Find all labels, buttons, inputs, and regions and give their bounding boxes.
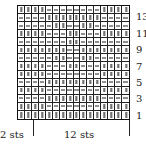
- purl-stitch-cell: [122, 14, 129, 22]
- knit-stitch-cell: [115, 71, 122, 79]
- purl-stitch-cell: [39, 38, 46, 46]
- purl-stitch-cell: [94, 103, 101, 111]
- purl-stitch-cell: [94, 38, 101, 46]
- knit-stitch-cell: [18, 111, 25, 119]
- knit-stitch-cell: [32, 46, 39, 54]
- knit-stitch-cell: [60, 79, 67, 87]
- knit-stitch-cell: [80, 79, 87, 87]
- knit-stitch-cell: [115, 30, 122, 38]
- knit-stitch-cell: [108, 46, 115, 54]
- purl-stitch-cell: [46, 6, 53, 14]
- purl-stitch-cell: [32, 95, 39, 103]
- purl-stitch-cell: [67, 6, 74, 14]
- knit-stitch-cell: [115, 6, 122, 14]
- knit-stitch-cell: [74, 38, 81, 46]
- knit-stitch-cell: [74, 14, 81, 22]
- knit-stitch-cell: [39, 46, 46, 54]
- knit-stitch-cell: [53, 79, 60, 87]
- knit-stitch-cell: [18, 46, 25, 54]
- knit-stitch-cell: [122, 62, 129, 70]
- row-number-label: 3: [136, 94, 142, 104]
- knit-stitch-cell: [115, 62, 122, 70]
- knit-stitch-cell: [80, 54, 87, 62]
- purl-stitch-cell: [39, 95, 46, 103]
- purl-stitch-cell: [122, 95, 129, 103]
- knit-stitch-cell: [122, 87, 129, 95]
- purl-stitch-cell: [94, 22, 101, 30]
- purl-stitch-cell: [53, 38, 60, 46]
- knit-stitch-cell: [60, 14, 67, 22]
- knit-stitch-cell: [67, 62, 74, 70]
- purl-stitch-cell: [80, 6, 87, 14]
- purl-stitch-cell: [18, 22, 25, 30]
- purl-stitch-cell: [122, 54, 129, 62]
- knit-stitch-cell: [80, 14, 87, 22]
- knit-stitch-cell: [101, 62, 108, 70]
- knit-stitch-cell: [46, 95, 53, 103]
- purl-stitch-cell: [32, 38, 39, 46]
- knit-stitch-cell: [74, 30, 81, 38]
- purl-stitch-cell: [74, 46, 81, 54]
- knit-stitch-cell: [94, 14, 101, 22]
- purl-stitch-cell: [67, 103, 74, 111]
- row-number-label: 1: [136, 111, 142, 121]
- purl-stitch-cell: [60, 87, 67, 95]
- knit-stitch-cell: [108, 71, 115, 79]
- purl-stitch-cell: [74, 103, 81, 111]
- purl-stitch-cell: [87, 87, 94, 95]
- purl-stitch-cell: [18, 54, 25, 62]
- purl-stitch-cell: [87, 103, 94, 111]
- knit-stitch-cell: [87, 14, 94, 22]
- knit-stitch-cell: [25, 62, 32, 70]
- purl-stitch-cell: [101, 22, 108, 30]
- purl-stitch-cell: [101, 79, 108, 87]
- purl-stitch-cell: [32, 22, 39, 30]
- purl-stitch-cell: [108, 95, 115, 103]
- knit-stitch-cell: [87, 22, 94, 30]
- knit-stitch-cell: [60, 46, 67, 54]
- purl-stitch-cell: [46, 54, 53, 62]
- purl-stitch-cell: [74, 71, 81, 79]
- purl-stitch-cell: [46, 71, 53, 79]
- knit-stitch-cell: [39, 62, 46, 70]
- knit-stitch-cell: [32, 87, 39, 95]
- knit-stitch-cell: [60, 22, 67, 30]
- knit-stitch-cell: [67, 30, 74, 38]
- knit-stitch-cell: [25, 103, 32, 111]
- knit-stitch-cell: [94, 46, 101, 54]
- purl-stitch-cell: [94, 62, 101, 70]
- purl-stitch-cell: [122, 38, 129, 46]
- knit-stitch-cell: [101, 6, 108, 14]
- knit-stitch-cell: [53, 54, 60, 62]
- knit-stitch-cell: [53, 95, 60, 103]
- knit-stitch-cell: [87, 79, 94, 87]
- purl-stitch-cell: [67, 87, 74, 95]
- knit-stitch-cell: [18, 71, 25, 79]
- purl-stitch-cell: [94, 71, 101, 79]
- purl-stitch-cell: [80, 71, 87, 79]
- purl-stitch-cell: [60, 62, 67, 70]
- purl-stitch-cell: [94, 54, 101, 62]
- purl-stitch-cell: [87, 38, 94, 46]
- knit-stitch-cell: [53, 22, 60, 30]
- purl-stitch-cell: [25, 79, 32, 87]
- purl-stitch-cell: [25, 22, 32, 30]
- purl-stitch-cell: [25, 14, 32, 22]
- knit-stitch-cell: [122, 71, 129, 79]
- knit-stitch-cell: [60, 54, 67, 62]
- row-number-label: 9: [136, 45, 142, 55]
- purl-stitch-cell: [67, 54, 74, 62]
- purl-stitch-cell: [53, 6, 60, 14]
- row-number-label: 7: [136, 62, 142, 72]
- purl-stitch-cell: [80, 87, 87, 95]
- knit-stitch-cell: [87, 54, 94, 62]
- knit-stitch-cell: [53, 14, 60, 22]
- purl-stitch-cell: [46, 87, 53, 95]
- knit-stitch-cell: [32, 6, 39, 14]
- knit-stitch-cell: [74, 79, 81, 87]
- knit-stitch-cell: [39, 87, 46, 95]
- purl-stitch-cell: [94, 6, 101, 14]
- purl-stitch-cell: [39, 14, 46, 22]
- purl-stitch-cell: [108, 14, 115, 22]
- purl-stitch-cell: [108, 38, 115, 46]
